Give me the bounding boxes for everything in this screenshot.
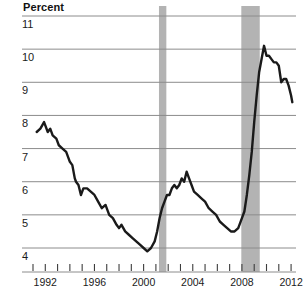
y-tick-label-11: 11 <box>22 18 33 30</box>
recession-2001-band <box>159 6 166 272</box>
y-tick-label-5: 5 <box>22 217 28 229</box>
y-tick-label-7: 7 <box>22 151 28 163</box>
y-tick-label-6: 6 <box>22 184 28 196</box>
x-tick-label-1996: 1996 <box>83 276 106 288</box>
chart-plot-area <box>0 0 304 300</box>
recession-2008-band <box>241 6 259 272</box>
unemployment-rate-chart: Percent 1110987654 199219962000200420082… <box>0 0 304 300</box>
y-tick-label-10: 10 <box>22 51 34 63</box>
y-tick-label-4: 4 <box>22 250 28 262</box>
y-tick-label-8: 8 <box>22 117 28 129</box>
x-tick-label-2012: 2012 <box>279 276 302 288</box>
x-tick-label-1992: 1992 <box>34 276 57 288</box>
x-tick-label-2004: 2004 <box>181 276 204 288</box>
x-tick-label-2000: 2000 <box>132 276 155 288</box>
x-tick-label-2008: 2008 <box>230 276 253 288</box>
recession-shading-group <box>159 6 260 272</box>
y-tick-label-9: 9 <box>22 84 28 96</box>
